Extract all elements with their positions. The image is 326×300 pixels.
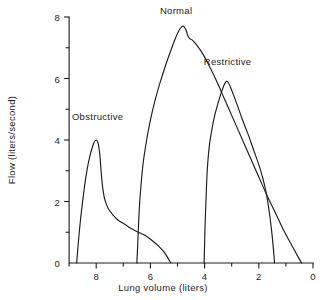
x-axis-title: Lung volume (liters) [118, 282, 207, 293]
axis-lines [69, 17, 313, 263]
chart-axes [64, 17, 313, 269]
y-axis-title: Flow (liters/second) [6, 96, 17, 184]
y-axis-tick-label: 8 [48, 12, 60, 23]
x-axis-tick-label: 8 [93, 271, 98, 282]
x-axis-tick-label: 0 [310, 271, 315, 282]
chart-series-curves [77, 26, 302, 263]
x-axis-tick-label: 2 [256, 271, 261, 282]
x-axis-tick-label: 6 [148, 271, 153, 282]
series-annotation-obstructive: Obstructive [72, 111, 123, 122]
chart-plot-area [0, 0, 326, 300]
y-axis-tick-label: 0 [48, 258, 60, 269]
series-curve-obstructive [77, 140, 171, 263]
y-axis-tick-label: 6 [48, 73, 60, 84]
y-axis-tick-marks [64, 17, 69, 232]
x-axis-tick-marks [69, 263, 313, 269]
flow-volume-loop-figure: 86420 02468 ObstructiveNormalRestrictive… [0, 0, 326, 300]
x-axis-tick-label: 4 [202, 271, 207, 282]
series-annotation-normal: Normal [160, 5, 192, 16]
series-curve-restrictive [204, 81, 274, 263]
y-axis-tick-label: 4 [48, 135, 60, 146]
series-annotation-restrictive: Restrictive [204, 56, 252, 67]
y-axis-tick-label: 2 [48, 196, 60, 207]
